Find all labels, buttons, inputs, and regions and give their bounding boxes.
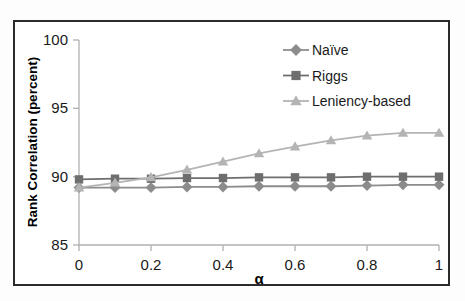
x-axis-ticks xyxy=(79,245,439,251)
data-point-square xyxy=(363,172,371,180)
legend-label: Riggs xyxy=(312,68,348,84)
x-tick-label: 0.2 xyxy=(141,256,162,273)
data-point-diamond xyxy=(146,182,157,193)
x-tick-label: 0.4 xyxy=(213,256,234,273)
legend-item-leniency-based[interactable]: Leniency-based xyxy=(283,93,411,109)
data-series-layer xyxy=(74,128,445,193)
chart-frame: 100 95 90 85 0 0.2 0.4 0.6 0.8 1 Rank Co… xyxy=(13,20,450,286)
data-point-diamond xyxy=(254,181,265,192)
legend-item-na-ve[interactable]: Naïve xyxy=(283,42,349,58)
y-tick-label: 90 xyxy=(51,168,68,185)
y-axis-ticks xyxy=(73,40,79,245)
legend-marker-square xyxy=(291,71,300,80)
data-point-diamond xyxy=(182,181,193,192)
axis-lines xyxy=(79,40,439,245)
data-point-square xyxy=(291,173,299,181)
y-tick-labels: 100 95 90 85 xyxy=(43,31,68,253)
data-point-square xyxy=(327,173,335,181)
data-point-diamond xyxy=(326,181,337,192)
data-point-square xyxy=(183,174,191,182)
figure-container: 100 95 90 85 0 0.2 0.4 0.6 0.8 1 Rank Co… xyxy=(0,0,465,301)
data-point-diamond xyxy=(362,180,373,191)
legend-item-riggs[interactable]: Riggs xyxy=(283,68,348,84)
rank-correlation-line-chart: 100 95 90 85 0 0.2 0.4 0.6 0.8 1 Rank Co… xyxy=(15,22,448,284)
data-point-diamond xyxy=(398,179,409,190)
x-axis-title: α xyxy=(254,270,264,284)
x-tick-label: 0.6 xyxy=(285,256,306,273)
data-point-square xyxy=(75,175,83,183)
y-axis-title: Rank Correlation (percent) xyxy=(25,57,40,227)
data-point-square xyxy=(435,172,443,180)
data-point-diamond xyxy=(218,181,229,192)
legend-marker-diamond xyxy=(290,44,302,56)
chart-legend: NaïveRiggsLeniency-based xyxy=(283,42,411,109)
y-tick-label: 85 xyxy=(51,236,68,253)
y-tick-label: 100 xyxy=(43,31,68,48)
x-tick-label: 0 xyxy=(75,256,83,273)
x-tick-label: 0.8 xyxy=(357,256,378,273)
data-point-square xyxy=(255,173,263,181)
data-point-diamond xyxy=(290,181,301,192)
data-point-square xyxy=(399,172,407,180)
legend-label: Leniency-based xyxy=(312,93,411,109)
data-point-square xyxy=(219,174,227,182)
x-tick-label: 1 xyxy=(435,256,443,273)
data-point-diamond xyxy=(434,179,445,190)
legend-label: Naïve xyxy=(312,42,349,58)
y-tick-label: 95 xyxy=(51,99,68,116)
